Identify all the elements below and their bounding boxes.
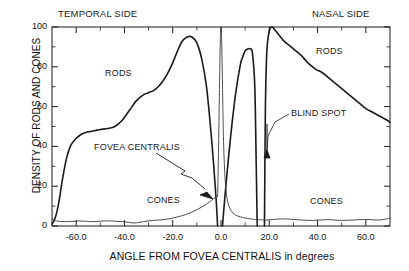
y-tick-label: 60: [23, 101, 47, 111]
y-tick-label: 100: [23, 21, 47, 31]
cones-label-temporal: CONES: [147, 195, 180, 205]
y-tick-label: 20: [23, 180, 47, 190]
x-tick-label: 40.0: [298, 232, 338, 242]
x-tick-label: -40.0: [104, 232, 144, 242]
x-tick-label: -20.0: [153, 232, 193, 242]
nasal-side-label: NASAL SIDE: [312, 8, 370, 19]
x-tick-label: -60.0: [56, 232, 96, 242]
rod-cone-density-figure: TEMPORAL SIDE NASAL SIDE RODS RODS CONES…: [0, 0, 409, 271]
temporal-side-label: TEMPORAL SIDE: [58, 8, 137, 19]
cones-label-nasal: CONES: [310, 196, 343, 206]
y-tick-label: 80: [23, 61, 47, 71]
x-tick-label: 60.0: [346, 232, 386, 242]
y-tick-label: 0: [23, 220, 47, 230]
x-axis-title: ANGLE FROM FOVEA CENTRALIS in degrees: [52, 250, 392, 262]
x-tick-label: 20.0: [249, 232, 289, 242]
x-tick-label: 0.0: [201, 232, 241, 242]
rods-label-nasal: RODS: [316, 46, 343, 56]
chart-canvas: [0, 0, 409, 271]
y-tick-label: 40: [23, 140, 47, 150]
fovea-centralis-label: FOVEA CENTRALIS: [94, 142, 180, 152]
blind-spot-label: BLIND SPOT: [291, 108, 347, 118]
rods-label-temporal: RODS: [105, 68, 132, 78]
